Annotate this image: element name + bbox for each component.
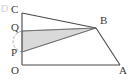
vertex-label-Q: Q [11,22,19,33]
vertex-label-B: B [100,15,107,26]
segment-CB [22,13,96,28]
figure-canvas [0,0,134,81]
vertex-label-A: A [119,65,127,76]
geometry-figure: D C Q P O B A [0,0,134,81]
segment-BA [96,28,120,65]
vertex-label-O: O [11,65,19,76]
vertex-label-P: P [11,47,17,58]
vertex-label-C: C [11,4,18,15]
